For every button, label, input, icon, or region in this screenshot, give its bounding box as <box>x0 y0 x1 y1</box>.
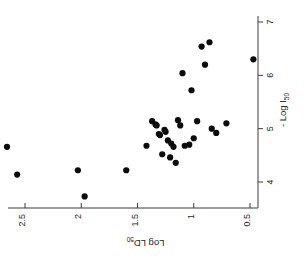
data-point <box>163 129 169 135</box>
data-point <box>188 87 194 93</box>
x-axis-title-subscript: 50 <box>126 236 134 243</box>
data-point <box>191 135 197 141</box>
data-point <box>143 143 149 149</box>
y-axis-title: - Log I50 <box>277 93 290 128</box>
y-tick-label: 7 <box>265 19 275 24</box>
data-point <box>123 167 129 173</box>
data-point <box>14 171 20 177</box>
data-point <box>82 193 88 199</box>
x-tick-label: 1.5 <box>130 214 140 227</box>
data-point <box>206 39 212 45</box>
data-point <box>209 126 215 132</box>
data-point <box>167 154 173 160</box>
y-tick-label: 6 <box>265 73 275 78</box>
data-point <box>199 43 205 49</box>
data-point <box>75 167 81 173</box>
x-tick-label: 2.5 <box>17 214 27 227</box>
data-point <box>175 117 181 123</box>
x-axis-title: Log LD50 <box>126 236 164 249</box>
data-point <box>213 130 219 136</box>
x-tick-label: 2 <box>73 214 83 219</box>
y-axis-title-text: - Log I50 <box>277 93 290 128</box>
data-point <box>186 142 192 148</box>
data-point <box>250 56 256 62</box>
data-point <box>194 118 200 124</box>
scatter-plot-figure: 2.521.510.54567Log LD50- Log I50 <box>0 0 304 264</box>
data-point-group <box>4 39 257 199</box>
data-point <box>202 62 208 68</box>
plot-canvas: 2.521.510.54567Log LD50- Log I50 <box>0 0 304 264</box>
data-point <box>170 144 176 150</box>
data-point <box>223 120 229 126</box>
data-point <box>177 122 183 128</box>
y-tick-label: 5 <box>265 126 275 131</box>
x-tick-label: 0.5 <box>242 214 252 227</box>
y-axis-title-subscript: 50 <box>283 93 290 101</box>
data-point <box>173 160 179 166</box>
data-point <box>179 70 185 76</box>
x-axis-title-text: Log LD50 <box>126 236 164 249</box>
y-tick-label: 4 <box>265 179 275 184</box>
data-point <box>159 151 165 157</box>
x-tick-label: 1 <box>186 214 196 219</box>
data-point <box>154 122 160 128</box>
data-point <box>157 132 163 138</box>
data-point <box>4 144 10 150</box>
